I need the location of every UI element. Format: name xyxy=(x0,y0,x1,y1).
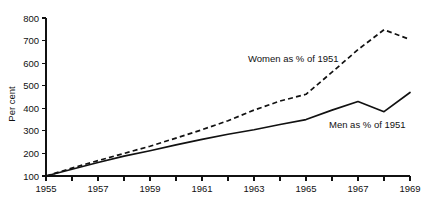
series-line-men xyxy=(46,92,410,176)
x-tick-label: 1969 xyxy=(399,183,420,194)
y-tick-label: 300 xyxy=(23,125,39,136)
y-tick-label: 400 xyxy=(23,103,39,114)
x-tick-label: 1957 xyxy=(87,183,108,194)
y-tick-label: 500 xyxy=(23,80,39,91)
x-tick-label: 1965 xyxy=(295,183,316,194)
y-axis: 100200300400500600700800 xyxy=(23,13,46,182)
y-tick-label: 600 xyxy=(23,58,39,69)
x-tick-label: 1961 xyxy=(191,183,212,194)
series-annotations: Women as % of 1951Men as % of 1951 xyxy=(248,53,406,130)
y-tick-label: 700 xyxy=(23,35,39,46)
y-tick-label: 800 xyxy=(23,13,39,24)
men-series-label: Men as % of 1951 xyxy=(329,119,406,130)
x-tick-label: 1963 xyxy=(243,183,264,194)
y-tick-label: 100 xyxy=(23,171,39,182)
x-tick-label: 1959 xyxy=(139,183,160,194)
chart-container: 100200300400500600700800 195519571959196… xyxy=(0,0,429,206)
y-tick-label: 200 xyxy=(23,148,39,159)
x-axis: 19551957195919611963196519671969 xyxy=(35,176,420,194)
data-series-group xyxy=(46,30,410,176)
women-series-label: Women as % of 1951 xyxy=(248,53,339,64)
x-tick-label: 1955 xyxy=(35,183,56,194)
y-axis-title: Per cent xyxy=(6,86,17,122)
x-tick-label: 1967 xyxy=(347,183,368,194)
line-chart: 100200300400500600700800 195519571959196… xyxy=(0,0,429,206)
